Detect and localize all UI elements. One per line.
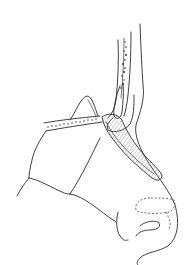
nasal-anatomy-drawing: [0, 0, 191, 265]
nostril-region: [117, 198, 175, 240]
facial-contours: [17, 131, 116, 222]
dorsal-implant: [102, 114, 162, 180]
illustration-canvas: [0, 0, 191, 265]
cartilage-strip: [44, 116, 102, 131]
nasal-bone-upper: [108, 32, 131, 118]
